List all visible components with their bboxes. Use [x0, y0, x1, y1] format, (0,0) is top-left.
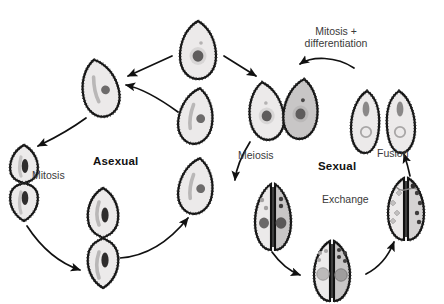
parent-cell — [180, 21, 216, 79]
asexual-daughter-upper — [76, 56, 123, 120]
arrow-parent-to-sexual — [224, 56, 256, 76]
conjugating-pair-multinucleate — [314, 241, 350, 301]
dividing-cell-mitosis — [10, 145, 38, 221]
post-fusion-cell-left — [351, 91, 379, 153]
diagram-canvas: Mitosis Asexual Meiosis Sexual Exchange … — [0, 0, 444, 304]
macronucleus-lower — [22, 191, 29, 205]
macronucleus-upper — [101, 208, 108, 223]
macronucleus — [276, 217, 287, 229]
micronucleus — [279, 204, 283, 208]
micronucleus — [279, 197, 283, 201]
micronucleus — [264, 206, 268, 210]
sexual-entry-cell-right — [281, 77, 321, 140]
macronucleus-fragmenting — [335, 269, 347, 281]
label-sexual: Sexual — [318, 160, 356, 173]
arrow-asexual-right-to-upper-left — [126, 85, 178, 112]
micronucleus — [199, 41, 203, 45]
label-mitosis-differentiation: Mitosis + differentiation — [288, 26, 384, 50]
asexual-cell-right-lower — [175, 156, 216, 216]
macronucleus — [193, 50, 204, 62]
macronucleus-bar — [363, 101, 370, 116]
macronucleus-upper — [22, 159, 29, 173]
label-asexual: Asexual — [93, 155, 139, 168]
arrow-asexual-upper-left-to-mitosis — [38, 118, 86, 146]
label-meiosis: Meiosis — [238, 150, 274, 162]
oral-groove-lower — [20, 192, 22, 213]
label-fusion: Fusion — [377, 148, 409, 160]
label-mitosis-differentiation-line1: Mitosis + — [315, 25, 357, 37]
conjugating-pair-exchange — [388, 178, 424, 240]
oral-groove — [20, 157, 22, 176]
arrow-mitosis-to-cytokinesis — [27, 226, 80, 270]
label-mitosis-differentiation-line2: differentiation — [305, 37, 368, 49]
dividing-cell-cytokinesis — [88, 188, 118, 288]
sexual-entry-cell-left — [245, 80, 287, 142]
migrating-micronucleus — [411, 184, 416, 189]
arrow-meiosis-to-bottom — [272, 252, 300, 275]
arrow-mitosis-differentiation — [300, 58, 354, 68]
label-mitosis: Mitosis — [32, 170, 65, 182]
label-exchange: Exchange — [322, 194, 369, 206]
post-fusion-cell-right — [387, 91, 415, 153]
macronucleus-fragmenting — [317, 268, 329, 280]
macronucleus-bar — [397, 101, 404, 116]
micronucleus — [260, 198, 264, 202]
arrow-bottom-to-exchange — [366, 242, 394, 274]
macronucleus — [259, 218, 269, 229]
arrow-cytokinesis-to-right — [120, 218, 188, 258]
asexual-cell-right-upper — [175, 86, 216, 146]
arrow-parent-to-asexual — [128, 56, 172, 76]
conjugating-pair-meiosis — [255, 184, 291, 250]
macronucleus-lower — [101, 253, 108, 268]
